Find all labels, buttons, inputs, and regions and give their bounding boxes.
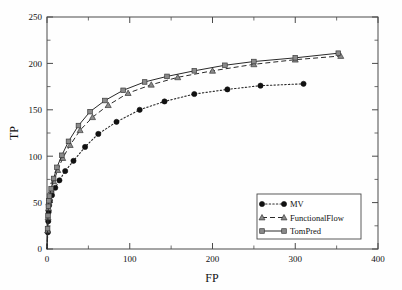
data-point-tompred — [165, 74, 170, 79]
data-point-mv — [63, 168, 68, 173]
x-tick-label: 100 — [123, 254, 137, 264]
data-point-tompred — [252, 59, 257, 64]
y-tick-label: 250 — [29, 12, 43, 22]
y-tick-label: 100 — [29, 152, 43, 162]
x-axis-title: FP — [205, 271, 219, 285]
legend-label-mv: MV — [290, 199, 305, 209]
data-point-tompred — [76, 123, 81, 128]
data-point-tompred — [121, 88, 126, 93]
data-point-functionalflow — [125, 90, 131, 95]
data-point-tompred — [66, 139, 71, 144]
legend-marker-tompred — [282, 229, 287, 234]
y-tick-label: 50 — [33, 198, 43, 208]
y-tick-label: 0 — [38, 244, 43, 254]
legend-label-tompred: TomPred — [290, 226, 322, 236]
data-point-tompred — [293, 56, 298, 61]
data-point-mv — [114, 119, 119, 124]
data-point-tompred — [47, 198, 52, 203]
data-point-tompred — [103, 98, 108, 103]
data-point-tompred — [51, 176, 56, 181]
legend-marker-mv — [259, 201, 264, 206]
data-point-mv — [82, 144, 87, 149]
legend-marker-tompred — [260, 229, 265, 234]
data-point-tompred — [55, 165, 60, 170]
data-point-mv — [301, 81, 306, 86]
data-point-tompred — [88, 109, 93, 114]
data-point-mv — [137, 107, 142, 112]
data-point-functionalflow — [148, 82, 154, 87]
chart-legend: MVFunctionalFlowTomPred — [257, 194, 361, 239]
x-tick-label: 200 — [206, 254, 220, 264]
data-point-mv — [225, 87, 230, 92]
y-tick-label: 200 — [29, 59, 43, 69]
data-point-mv — [71, 158, 76, 163]
data-point-tompred — [45, 226, 50, 231]
data-point-tompred — [46, 204, 51, 209]
data-point-mv — [57, 178, 62, 183]
y-tick-label: 150 — [29, 105, 43, 115]
legend-label-functionalflow: FunctionalFlow — [290, 213, 345, 223]
x-tick-label: 400 — [371, 254, 385, 264]
data-point-tompred — [336, 51, 341, 56]
data-point-mv — [192, 91, 197, 96]
chart-canvas: 0100200300400050100150200250 FP TP MVFun… — [0, 0, 402, 290]
data-point-mv — [96, 131, 101, 136]
data-point-tompred — [46, 213, 51, 218]
x-tick-label: 0 — [45, 254, 50, 264]
data-point-tompred — [49, 186, 54, 191]
data-point-tompred — [223, 63, 228, 68]
legend-marker-mv — [281, 201, 286, 206]
data-point-mv — [162, 99, 167, 104]
y-axis-title: TP — [7, 126, 21, 140]
data-point-tompred — [60, 153, 65, 158]
data-point-tompred — [47, 194, 52, 199]
x-tick-label: 300 — [289, 254, 303, 264]
data-point-tompred — [142, 80, 147, 85]
data-point-tompred — [192, 69, 197, 74]
data-point-mv — [258, 83, 263, 88]
chart-figure: 0100200300400050100150200250 FP TP MVFun… — [0, 0, 402, 290]
